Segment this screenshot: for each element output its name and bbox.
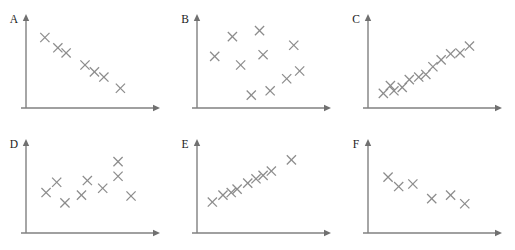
scatter-panel-b: B <box>171 0 342 125</box>
data-point-marker <box>62 48 71 57</box>
data-point-marker <box>113 172 122 181</box>
data-point-marker <box>446 49 455 58</box>
x-axis-arrow-icon <box>495 230 502 236</box>
y-axis-arrow-icon <box>23 14 29 21</box>
y-axis-arrow-icon <box>194 139 200 146</box>
panel-plot-area: B <box>171 0 342 125</box>
panel-plot-area: E <box>171 125 342 250</box>
data-point-marker <box>99 72 108 81</box>
data-point-marker <box>90 67 99 76</box>
y-axis-arrow-icon <box>365 14 371 21</box>
data-point-marker <box>386 81 395 90</box>
data-point-marker <box>243 179 252 188</box>
data-point-marker <box>60 198 69 207</box>
data-point-marker <box>40 33 49 42</box>
panel-plot-area: F <box>342 125 513 250</box>
data-point-marker <box>126 191 135 200</box>
x-axis-arrow-icon <box>153 230 160 236</box>
data-point-marker <box>98 184 107 193</box>
data-point-marker <box>408 179 417 188</box>
data-point-marker <box>41 188 50 197</box>
data-point-marker <box>210 52 219 61</box>
data-point-marker <box>247 91 256 100</box>
data-point-marker <box>446 191 455 200</box>
data-point-marker <box>218 191 227 200</box>
y-axis-arrow-icon <box>365 139 371 146</box>
panel-label: A <box>10 13 19 25</box>
data-point-marker <box>437 55 446 64</box>
panel-label: C <box>352 13 360 25</box>
x-axis-arrow-icon <box>153 105 160 111</box>
data-point-marker <box>394 182 403 191</box>
data-point-marker <box>255 26 264 35</box>
data-point-marker <box>428 62 437 71</box>
data-point-marker <box>455 48 464 57</box>
scatterplot-figure: ABCDEF <box>0 0 515 250</box>
data-point-marker <box>258 50 267 59</box>
data-point-marker <box>83 176 92 185</box>
scatter-panel-d: D <box>0 125 171 250</box>
data-point-marker <box>427 194 436 203</box>
data-point-marker <box>208 197 217 206</box>
x-axis-arrow-icon <box>324 230 331 236</box>
data-point-marker <box>287 155 296 164</box>
data-point-marker <box>414 72 423 81</box>
data-point-marker <box>282 74 291 83</box>
panel-plot-area: A <box>0 0 171 125</box>
panel-label: F <box>353 138 359 150</box>
x-axis-arrow-icon <box>324 105 331 111</box>
data-point-marker <box>116 84 125 93</box>
data-point-marker <box>295 66 304 75</box>
data-point-marker <box>289 41 298 50</box>
y-axis-arrow-icon <box>194 14 200 21</box>
data-point-marker <box>236 60 245 69</box>
y-axis-arrow-icon <box>23 139 29 146</box>
data-point-marker <box>460 199 469 208</box>
scatter-panel-e: E <box>171 125 342 250</box>
data-point-marker <box>389 86 398 95</box>
data-point-marker <box>53 43 62 52</box>
panel-label: B <box>181 13 189 25</box>
data-point-marker <box>383 173 392 182</box>
data-point-marker <box>113 157 122 166</box>
panel-label: D <box>10 138 18 150</box>
panel-plot-area: C <box>342 0 513 125</box>
data-point-marker <box>405 75 414 84</box>
data-point-marker <box>77 191 86 200</box>
data-point-marker <box>80 60 89 69</box>
data-point-marker <box>465 41 474 50</box>
scatter-panel-a: A <box>0 0 171 125</box>
x-axis-arrow-icon <box>495 105 502 111</box>
data-point-marker <box>228 32 237 41</box>
scatter-panel-c: C <box>342 0 513 125</box>
data-point-marker <box>266 86 275 95</box>
panel-plot-area: D <box>0 125 171 250</box>
data-point-marker <box>267 166 276 175</box>
panel-label: E <box>181 138 188 150</box>
scatter-panel-f: F <box>342 125 513 250</box>
data-point-marker <box>52 178 61 187</box>
